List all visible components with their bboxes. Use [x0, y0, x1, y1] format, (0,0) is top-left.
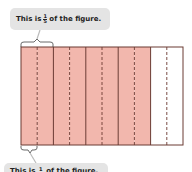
- bottom-brace: [21, 146, 37, 153]
- top-brace: [21, 39, 53, 47]
- shaded-part: [53, 47, 69, 145]
- one-fifth-fraction: 1 5: [43, 14, 47, 25]
- top-callout-pointer: [37, 30, 40, 39]
- shaded-part: [70, 47, 86, 145]
- shaded-part: [86, 47, 102, 145]
- shaded-part: [21, 47, 37, 145]
- unshaded-part: [151, 47, 167, 145]
- top-callout: This is 1 5 of the figure.: [10, 8, 110, 30]
- shaded-part: [37, 47, 53, 145]
- unshaded-part: [167, 47, 183, 145]
- one-tenth-fraction: 1 10: [37, 167, 44, 172]
- bottom-callout-suffix: of the figure.: [46, 167, 98, 172]
- bottom-callout: This is 1 10 of the figure.: [4, 163, 108, 172]
- shaded-part: [118, 47, 134, 145]
- shaded-part: [134, 47, 150, 145]
- top-callout-suffix: of the figure.: [49, 15, 101, 23]
- top-callout-prefix: This is: [16, 15, 41, 23]
- bottom-callout-pointer: [30, 153, 36, 163]
- shaded-region: [21, 47, 183, 145]
- bottom-callout-prefix: This is: [10, 167, 35, 172]
- shaded-part: [102, 47, 118, 145]
